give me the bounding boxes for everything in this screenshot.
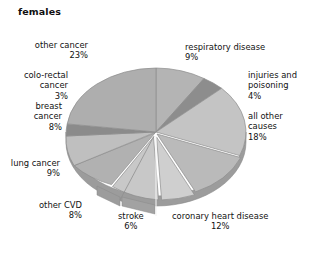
label-breast-cancer-name2: cancer bbox=[34, 111, 62, 121]
label-lung-cancer-pct: 9% bbox=[11, 168, 60, 178]
pie-depth-wall bbox=[66, 132, 246, 214]
label-other-cancer-pct: 23% bbox=[35, 50, 88, 60]
label-breast-cancer-name: breast bbox=[35, 101, 62, 111]
label-injuries-and-poisoning-name2: poisoning bbox=[248, 80, 297, 90]
label-other-cvd-name: other CVD bbox=[39, 200, 82, 210]
slice-stroke bbox=[157, 137, 195, 200]
label-lung-cancer-name: lung cancer bbox=[11, 158, 60, 168]
label-all-other-causes: all other causes 18% bbox=[248, 111, 283, 142]
label-stroke-pct: 6% bbox=[118, 221, 144, 231]
label-injuries-and-poisoning-name: injuries and bbox=[248, 70, 297, 80]
label-respiratory-disease-name: respiratory disease bbox=[185, 42, 265, 52]
label-other-cvd: other CVD 8% bbox=[39, 200, 82, 221]
label-respiratory-disease: respiratory disease 9% bbox=[185, 42, 265, 63]
label-all-other-causes-pct: 18% bbox=[248, 132, 283, 142]
slice-respiratory-disease bbox=[156, 68, 204, 132]
label-coronary-heart-disease: coronary heart disease 12% bbox=[172, 211, 268, 232]
label-all-other-causes-name2: causes bbox=[248, 121, 283, 131]
label-other-cancer: other cancer 23% bbox=[35, 40, 88, 61]
slice-other-cancer bbox=[67, 68, 156, 132]
label-injuries-and-poisoning-pct: 4% bbox=[248, 91, 297, 101]
label-colo-rectal-cancer-name2: cancer bbox=[24, 80, 68, 90]
label-other-cvd-pct: 8% bbox=[39, 210, 82, 220]
slice-injuries-and-poisoning bbox=[156, 79, 222, 133]
label-lung-cancer: lung cancer 9% bbox=[11, 158, 60, 179]
slice-colo-rectal-cancer bbox=[66, 124, 156, 136]
label-colo-rectal-cancer-name: colo-rectal bbox=[24, 70, 68, 80]
slice-lung-cancer bbox=[74, 133, 155, 185]
label-other-cancer-name: other cancer bbox=[35, 40, 88, 50]
slice-other-cvd bbox=[113, 137, 159, 200]
pie-slices bbox=[66, 68, 246, 200]
label-colo-rectal-cancer-pct: 3% bbox=[24, 91, 68, 101]
label-injuries-and-poisoning: injuries and poisoning 4% bbox=[248, 70, 297, 101]
label-stroke-name: stroke bbox=[118, 211, 144, 221]
label-coronary-heart-disease-name: coronary heart disease bbox=[172, 211, 268, 221]
chart-title: females bbox=[18, 6, 61, 17]
label-coronary-heart-disease-pct: 12% bbox=[172, 221, 268, 231]
label-breast-cancer: breast cancer 8% bbox=[34, 101, 62, 132]
label-all-other-causes-name: all other bbox=[248, 111, 283, 121]
label-stroke: stroke 6% bbox=[118, 211, 144, 232]
chart-canvas: females bbox=[0, 0, 310, 253]
slice-breast-cancer bbox=[66, 132, 156, 166]
label-colo-rectal-cancer: colo-rectal cancer 3% bbox=[24, 70, 68, 101]
slice-all-other-causes bbox=[156, 88, 246, 155]
label-breast-cancer-pct: 8% bbox=[34, 122, 62, 132]
label-respiratory-disease-pct: 9% bbox=[185, 52, 265, 62]
slice-gap-shadow bbox=[120, 136, 154, 200]
slice-coronary-heart-disease bbox=[157, 134, 241, 192]
